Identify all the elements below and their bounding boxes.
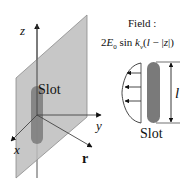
slot-bar [147, 62, 160, 123]
formula-minus: − [150, 36, 162, 48]
field-distribution-curve [122, 63, 141, 123]
field-title: Field : [128, 18, 156, 29]
formula-E-subscript: 0 [113, 43, 117, 51]
field-formula: 2E0 sin kv(l − |z|) [101, 37, 174, 51]
diagram-graphics [0, 0, 185, 182]
plane-slot-label: Slot [38, 83, 61, 97]
z-axis-label: z [20, 24, 25, 37]
slot-antenna-diagram: z y x r Slot Field : 2E0 sin kv(l − |z|)… [0, 0, 185, 182]
y-axis-label: y [96, 119, 102, 132]
formula-sin: sin [119, 36, 132, 48]
slot-label: Slot [140, 127, 163, 141]
x-axis-label: x [14, 143, 20, 156]
r-vector-label: r [82, 152, 88, 166]
formula-close-paren: ) [170, 36, 174, 48]
slot-length-label: l [175, 86, 179, 101]
